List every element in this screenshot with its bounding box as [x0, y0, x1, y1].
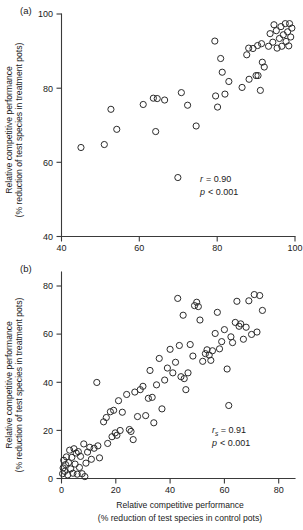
data-point	[88, 456, 94, 462]
data-point	[143, 412, 149, 418]
panel-b-p-symbol: p	[211, 438, 217, 448]
panel-b-p-value: < 0.001	[220, 438, 250, 448]
data-point	[147, 367, 153, 373]
data-point	[216, 346, 222, 352]
data-point	[175, 295, 181, 301]
panel-b-xlabel-line2: (% reduction of test species in control …	[98, 513, 262, 523]
data-point	[115, 398, 121, 404]
data-point	[218, 55, 224, 61]
data-point	[240, 336, 246, 342]
data-point	[229, 339, 235, 345]
panel-b-ytick-0: 0	[48, 474, 53, 484]
data-point	[185, 370, 191, 376]
data-point	[81, 441, 87, 447]
panel-a-stat-p: p< 0.001	[199, 187, 238, 197]
panel-b: (b) Relative competitive performance (% …	[4, 263, 295, 523]
data-point	[128, 428, 134, 434]
data-point	[239, 84, 245, 90]
data-point	[183, 387, 189, 393]
panel-a-xtick-0: 40	[56, 243, 66, 253]
panel-a-ytick-0: 40	[43, 232, 53, 242]
data-point	[180, 312, 186, 318]
data-point	[214, 104, 220, 110]
data-point	[96, 455, 102, 461]
panel-a-ytick-3: 100	[38, 9, 53, 19]
data-point	[130, 437, 136, 443]
panel-a-stats: r= 0.90 p< 0.001	[199, 174, 238, 197]
data-point	[202, 351, 208, 357]
data-point	[167, 346, 173, 352]
panel-b-data-points	[59, 291, 265, 479]
panel-b-stat-value: = 0.91	[221, 425, 246, 435]
data-point	[212, 330, 218, 336]
data-point	[246, 76, 252, 82]
data-point	[176, 342, 182, 348]
data-point	[153, 382, 159, 388]
data-point	[164, 365, 170, 371]
data-point	[153, 128, 159, 134]
data-point	[270, 39, 276, 45]
data-point	[184, 102, 190, 108]
data-point	[257, 87, 263, 93]
data-point	[83, 460, 89, 466]
data-point	[187, 341, 193, 347]
data-point	[105, 440, 111, 446]
data-point	[222, 91, 228, 97]
figure-container: (a) Relative competitive performance (% …	[0, 0, 303, 530]
data-point	[114, 126, 120, 132]
panel-b-stat-rs: rs= 0.91	[212, 425, 246, 437]
data-point	[172, 359, 178, 365]
data-point	[108, 106, 114, 112]
panel-b-stat-p: p< 0.001	[211, 438, 250, 448]
panel-a-y-ticks: 40 60 80 100	[38, 9, 62, 241]
data-point	[76, 464, 82, 470]
data-point	[159, 406, 165, 412]
panel-a-stat-value: = 0.90	[206, 174, 231, 184]
panel-a-stat-r: r= 0.90	[200, 174, 231, 184]
data-point	[271, 22, 277, 28]
panel-b-stats: rs= 0.91 p< 0.001	[211, 425, 250, 448]
panel-a-stat-symbol: r	[200, 174, 204, 184]
panel-a-xtick-3: 100	[287, 243, 302, 253]
data-point	[258, 41, 264, 47]
panel-b-ytick-3: 60	[43, 329, 53, 339]
data-point	[278, 24, 284, 30]
panel-b-xtick-0: 0	[59, 485, 64, 495]
panel-a-label: (a)	[20, 5, 32, 16]
data-point	[224, 366, 230, 372]
data-point	[140, 101, 146, 107]
data-point	[200, 358, 206, 364]
panel-a-ytick-1: 60	[43, 158, 53, 168]
panel-b-x-ticks: 0 20 40 60 80	[59, 479, 284, 496]
data-point	[134, 413, 140, 419]
data-point	[228, 334, 234, 340]
data-point	[246, 298, 252, 304]
data-point	[190, 353, 196, 359]
panel-a-x-ticks: 40 60 80 100	[56, 237, 302, 254]
data-point	[101, 141, 107, 147]
data-point	[178, 90, 184, 96]
data-point	[226, 402, 232, 408]
data-point	[175, 174, 181, 180]
data-point	[151, 420, 157, 426]
panel-b-ytick-1: 20	[43, 426, 53, 436]
panel-b-xlabel-line1: Relative competitive performance	[116, 500, 244, 510]
data-point	[94, 379, 100, 385]
data-point	[149, 394, 155, 400]
data-point	[212, 38, 218, 44]
data-point	[126, 426, 132, 432]
panel-a-ytick-2: 80	[43, 84, 53, 94]
data-point	[234, 298, 240, 304]
panel-b-xtick-3: 60	[219, 485, 229, 495]
data-point	[254, 329, 260, 335]
data-point	[243, 324, 249, 330]
panel-b-label: (b)	[20, 263, 32, 274]
data-point	[214, 309, 220, 315]
panel-b-xtick-1: 20	[111, 485, 121, 495]
data-point	[213, 93, 219, 99]
data-point	[280, 32, 286, 38]
scatter-figure: (a) Relative competitive performance (% …	[0, 0, 303, 530]
panel-a-p-value: < 0.001	[208, 187, 238, 197]
panel-a-p-symbol: p	[199, 187, 205, 197]
data-point	[124, 391, 130, 397]
